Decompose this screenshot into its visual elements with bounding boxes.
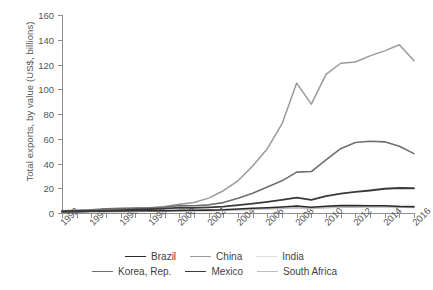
legend-label: South Africa — [283, 266, 337, 277]
legend-label: Mexico — [211, 266, 243, 277]
legend-swatch — [257, 271, 278, 272]
legend-swatch — [256, 256, 277, 257]
chart-legend: BrazilChinaIndia Korea, Rep.MexicoSouth … — [0, 249, 429, 279]
legend-swatch — [92, 271, 113, 272]
legend-item-korea-rep[interactable]: Korea, Rep. — [92, 266, 171, 277]
series-line — [62, 141, 414, 211]
legend-swatch — [190, 256, 211, 257]
legend-label: China — [216, 251, 242, 262]
legend-label: Korea, Rep. — [118, 266, 171, 277]
legend-swatch — [185, 271, 206, 272]
legend-item-india[interactable]: India — [256, 251, 304, 262]
legend-label: Brazil — [151, 251, 176, 262]
legend-item-china[interactable]: China — [190, 251, 242, 262]
legend-item-brazil[interactable]: Brazil — [125, 251, 176, 262]
legend-label: India — [282, 251, 304, 262]
legend-item-mexico[interactable]: Mexico — [185, 266, 243, 277]
legend-row: BrazilChinaIndia — [0, 249, 429, 264]
legend-swatch — [125, 256, 146, 257]
legend-item-south-africa[interactable]: South Africa — [257, 266, 337, 277]
legend-row: Korea, Rep.MexicoSouth Africa — [0, 264, 429, 279]
series-line — [62, 45, 414, 211]
